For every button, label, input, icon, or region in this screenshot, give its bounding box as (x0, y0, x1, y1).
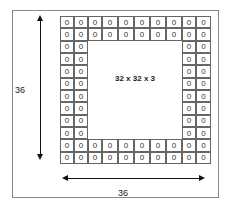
padding-cell: 0 (196, 78, 211, 90)
padding-cell: 0 (150, 139, 166, 151)
padding-cell: 0 (196, 28, 211, 40)
padding-cell: 0 (74, 102, 88, 114)
padding-cell: 0 (60, 127, 74, 139)
padding-cell: 0 (74, 53, 88, 65)
padding-cell: 0 (150, 16, 166, 28)
padding-cell: 0 (118, 28, 134, 40)
padding-cell: 0 (118, 16, 134, 28)
padding-cell: 0 (182, 102, 196, 114)
padding-cell: 0 (196, 65, 211, 77)
padding-cell: 0 (102, 28, 118, 40)
padding-cell: 0 (182, 28, 196, 40)
padding-cell: 0 (182, 78, 196, 90)
padding-cell: 0 (118, 152, 134, 164)
padding-cell: 0 (166, 28, 182, 40)
padding-cell: 0 (74, 28, 88, 40)
padding-cell: 0 (182, 16, 196, 28)
padding-cell: 0 (74, 65, 88, 77)
input-dimensions-label: 32 x 32 x 3 (100, 74, 170, 83)
padding-cell: 0 (74, 115, 88, 127)
padding-cell: 0 (74, 41, 88, 53)
padding-cell: 0 (182, 115, 196, 127)
padding-cell: 0 (88, 16, 102, 28)
padding-cell: 0 (196, 53, 211, 65)
padding-cell: 0 (60, 65, 74, 77)
width-label: 36 (118, 188, 128, 198)
padding-cell: 0 (102, 152, 118, 164)
padding-cell: 0 (88, 139, 102, 151)
width-arrow-line (66, 178, 202, 179)
arrow-right-icon (199, 175, 205, 181)
padding-cell: 0 (134, 28, 150, 40)
padding-cell: 0 (196, 102, 211, 114)
padding-cell: 0 (182, 152, 196, 164)
padding-cell: 0 (60, 28, 74, 40)
padding-cell: 0 (182, 127, 196, 139)
padding-cell: 0 (166, 16, 182, 28)
padding-cell: 0 (196, 41, 211, 53)
padding-cell: 0 (60, 90, 74, 102)
arrow-up-icon (37, 15, 43, 21)
padding-cell: 0 (134, 16, 150, 28)
arrow-down-icon (37, 154, 43, 160)
padding-cell: 0 (102, 16, 118, 28)
padding-cell: 0 (196, 152, 211, 164)
padding-cell: 0 (196, 115, 211, 127)
padding-cell: 0 (88, 152, 102, 164)
padding-cell: 0 (74, 139, 88, 151)
padding-cell: 0 (150, 28, 166, 40)
arrow-left-icon (62, 175, 68, 181)
padding-cell: 0 (166, 152, 182, 164)
padding-cell: 0 (196, 127, 211, 139)
padded-grid: 0000000000000000000000000000000000000000… (60, 16, 211, 164)
padding-cell: 0 (182, 41, 196, 53)
padding-cell: 0 (60, 152, 74, 164)
padding-cell: 0 (150, 152, 166, 164)
padding-cell: 0 (134, 139, 150, 151)
padding-cell: 0 (60, 41, 74, 53)
padding-cell: 0 (74, 16, 88, 28)
padding-cell: 0 (182, 53, 196, 65)
padding-cell: 0 (74, 90, 88, 102)
padding-cell: 0 (60, 78, 74, 90)
padding-cell: 0 (74, 78, 88, 90)
padding-cell: 0 (134, 152, 150, 164)
padding-cell: 0 (196, 16, 211, 28)
padding-cell: 0 (166, 139, 182, 151)
padding-cell: 0 (60, 16, 74, 28)
height-label: 36 (15, 85, 25, 95)
padding-cell: 0 (118, 139, 134, 151)
padding-cell: 0 (182, 65, 196, 77)
padding-cell: 0 (102, 139, 118, 151)
padding-cell: 0 (60, 115, 74, 127)
padding-cell: 0 (182, 90, 196, 102)
padding-cell: 0 (60, 53, 74, 65)
padding-cell: 0 (196, 139, 211, 151)
padding-cell: 0 (88, 28, 102, 40)
padding-cell: 0 (74, 127, 88, 139)
padding-cell: 0 (60, 139, 74, 151)
padding-cell: 0 (60, 102, 74, 114)
height-arrow-line (40, 18, 41, 158)
padding-cell: 0 (196, 90, 211, 102)
padding-cell: 0 (182, 139, 196, 151)
padding-cell: 0 (74, 152, 88, 164)
